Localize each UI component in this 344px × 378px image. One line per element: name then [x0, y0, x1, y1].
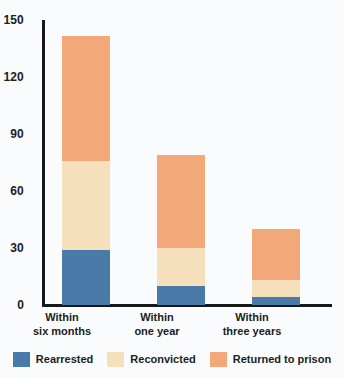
bar-stack [157, 155, 205, 305]
bar-segment-reconvicted [62, 161, 110, 250]
x-label-line-2: three years [197, 324, 307, 338]
y-tick-label-60: 60 [0, 184, 24, 198]
y-tick-label-150: 150 [0, 13, 24, 27]
bar-segment-returned-to-prison [62, 36, 110, 161]
x-label-within-three-years: Within three years [197, 310, 307, 338]
x-label-line-1: Within [235, 311, 269, 323]
bar-segment-returned-to-prison [252, 229, 300, 280]
x-label-line-2: one year [102, 324, 212, 338]
y-tick-label-120: 120 [0, 70, 24, 84]
legend-swatch-returned-to-prison [210, 352, 227, 367]
legend-label-reconvicted: Reconvicted [130, 353, 195, 365]
bar-segment-rearrested [157, 286, 205, 305]
legend-item-rearrested: Rearrested [13, 352, 93, 367]
bar-segment-returned-to-prison [157, 155, 205, 248]
bar-stack [62, 36, 110, 305]
legend-item-returned-to-prison: Returned to prison [210, 352, 331, 367]
plot-area: 150 120 90 60 30 0 [42, 20, 332, 307]
bars-container [45, 20, 332, 305]
chart-legend: Rearrested Reconvicted Returned to priso… [0, 349, 344, 369]
legend-label-rearrested: Rearrested [36, 353, 93, 365]
stacked-bar-chart: 150 120 90 60 30 0 [0, 0, 344, 378]
y-tick-label-90: 90 [0, 127, 24, 141]
x-axis-labels: Within six months Within one year Within… [42, 310, 332, 344]
bar-segment-rearrested [252, 297, 300, 305]
x-label-line-1: Within [140, 311, 174, 323]
legend-swatch-reconvicted [107, 352, 124, 367]
x-label-line-1: Within [45, 311, 79, 323]
legend-item-reconvicted: Reconvicted [107, 352, 195, 367]
legend-swatch-rearrested [13, 352, 30, 367]
x-label-within-one-year: Within one year [102, 310, 212, 338]
bar-segment-rearrested [62, 250, 110, 305]
bar-segment-reconvicted [157, 248, 205, 286]
bar-segment-reconvicted [252, 280, 300, 297]
x-label-within-six-months: Within six months [7, 310, 117, 338]
bar-stack [252, 229, 300, 305]
y-tick-label-30: 30 [0, 241, 24, 255]
legend-label-returned-to-prison: Returned to prison [233, 353, 331, 365]
x-label-line-2: six months [7, 324, 117, 338]
